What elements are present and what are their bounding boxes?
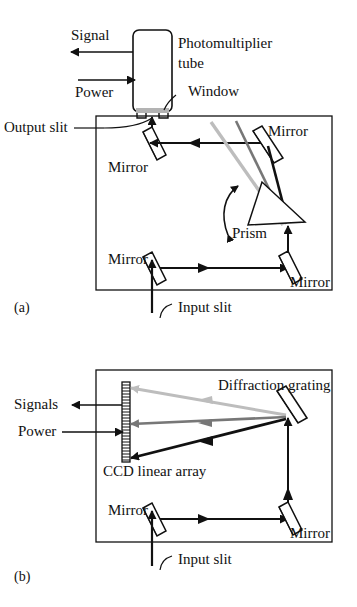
ray-black-arrowhead-b [197, 436, 213, 446]
label-mirror-lower-right-a: Mirror [290, 275, 330, 290]
ray-into-grating-arrowhead-b [283, 487, 293, 500]
ray-upper-arrowhead-a [188, 138, 200, 148]
label-signals-b: Signals [14, 397, 58, 412]
ray-lower-arrowhead-b [198, 514, 210, 524]
ray-light-gray-arrowhead-b [198, 396, 213, 404]
label-power-b: Power [18, 424, 56, 439]
spectrometer-figure: Signal Power Photomultiplier tube Window… [0, 0, 357, 607]
label-prism: Prism [232, 226, 267, 241]
label-mirror-lower-left-a: Mirror [108, 252, 148, 267]
label-photomultiplier-tube: Photomultiplier [178, 36, 272, 51]
label-mirror-left-b: Mirror [108, 503, 148, 518]
ray-lower-arrowhead-a [198, 263, 210, 273]
ccd-linear-array-element [122, 382, 130, 462]
label-window: Window [188, 84, 239, 99]
input-slit-leader-a [160, 304, 172, 318]
caption-panel-a: (a) [14, 301, 30, 315]
label-ccd-linear-array: CCD linear array [103, 464, 206, 479]
label-power-a: Power [75, 85, 113, 100]
label-mirror-right-b: Mirror [290, 526, 330, 541]
label-photomultiplier-tube-line2: tube [178, 56, 204, 71]
input-slit-leader-b [160, 556, 172, 570]
label-mirror-upper-left-a: Mirror [108, 160, 148, 175]
label-mirror-upper-right-a: Mirror [268, 124, 308, 139]
label-output-slit: Output slit [4, 120, 68, 135]
label-input-slit-a: Input slit [178, 300, 232, 315]
label-signal-a: Signal [71, 28, 109, 43]
label-diffraction-grating: Diffraction grating [218, 378, 331, 393]
caption-panel-b: (b) [14, 570, 30, 584]
output-slit-leader [74, 118, 152, 128]
label-input-slit-b: Input slit [178, 552, 232, 567]
